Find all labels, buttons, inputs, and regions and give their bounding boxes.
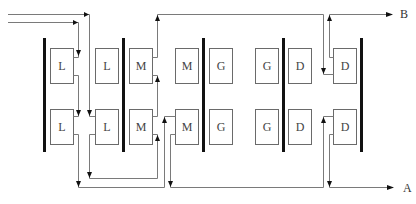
wire-l2-to-m-bus [90, 135, 96, 179]
box-label: M [136, 120, 147, 134]
box-bottom-g1: G [210, 110, 233, 145]
box-top-d1: D [289, 49, 312, 84]
box-top-m2: M [176, 49, 199, 84]
arrow-down-icon [76, 50, 81, 56]
box-top-m1: M [130, 49, 153, 84]
box-label: L [58, 59, 65, 73]
wire-a-bus-from-m2 [79, 117, 176, 188]
box-label: L [103, 120, 110, 134]
arrow-down-icon [76, 181, 81, 187]
box-bottom-m1: M [130, 110, 153, 145]
arrow-up-icon [155, 135, 160, 141]
box-label: D [296, 120, 305, 134]
box-label: L [58, 120, 65, 134]
arrow-down-icon [87, 110, 92, 116]
box-label: G [217, 120, 226, 134]
output-label-a: A [403, 181, 412, 195]
arrow-up-icon [162, 117, 167, 123]
box-label: L [103, 59, 110, 73]
box-bottom-d1: D [289, 110, 312, 145]
box-label: G [263, 120, 272, 134]
box-label: M [182, 120, 193, 134]
arrow-down-icon [321, 68, 326, 74]
box-bottom-l2: L [96, 110, 119, 145]
box-top-g2: G [256, 49, 279, 84]
separator-bar-4 [282, 38, 285, 152]
separator-bar-5 [360, 38, 363, 152]
box-top-d2: D [334, 49, 357, 84]
arrow-down-icon [76, 110, 81, 116]
box-bottom-l1: L [51, 110, 74, 145]
arrow-up-icon [327, 15, 332, 21]
box-label: G [263, 59, 272, 73]
box-label: D [296, 59, 305, 73]
arrow-down-icon [168, 181, 173, 187]
box-label: M [182, 59, 193, 73]
arrow-right-icon [73, 20, 78, 25]
box-bottom-g2: G [256, 110, 279, 145]
box-top-l1: L [51, 49, 74, 84]
box-label: M [136, 59, 147, 73]
box-top-l2: L [96, 49, 119, 84]
block-diagram: L L M M G G D D [0, 0, 416, 204]
box-bottom-m2: M [176, 110, 199, 145]
arrow-right-icon [84, 12, 89, 17]
middle-wires [79, 15, 334, 188]
arrow-up-icon [321, 117, 326, 123]
separator-bar-3 [202, 38, 205, 152]
arrow-right-icon [387, 185, 394, 190]
separator-bar-2 [122, 38, 125, 152]
box-label: D [341, 59, 350, 73]
separator-bar-1 [43, 38, 46, 152]
arrow-up-icon [155, 76, 160, 82]
box-bottom-d2: D [334, 110, 357, 145]
arrow-up-icon [155, 15, 160, 21]
output-label-b: B [400, 7, 408, 21]
input-wires [8, 12, 95, 188]
arrow-down-icon [327, 181, 332, 187]
box-label: G [217, 59, 226, 73]
wire-l1-to-a-bus [74, 135, 79, 188]
box-label: D [341, 120, 350, 134]
arrow-right-icon [386, 12, 393, 17]
box-top-g1: G [210, 49, 233, 84]
arrow-down-icon [87, 172, 92, 178]
